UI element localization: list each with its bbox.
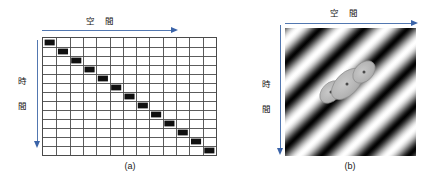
arrow-head-icon xyxy=(411,20,418,26)
figure-container: 空 間 時 間 (a) 空 間 xyxy=(0,0,433,185)
panel-a-caption: (a) xyxy=(110,162,150,171)
panel-b-grating-svg xyxy=(285,28,416,156)
grid-filled-cell xyxy=(151,112,161,118)
panel-b-y-axis-label-char-2: 間 xyxy=(260,102,272,117)
panel-a-grid-plot xyxy=(42,37,217,156)
arrow-head-icon xyxy=(171,27,178,33)
panel-b-y-axis-label-char-1: 時 xyxy=(260,77,272,92)
panel-a-y-axis-label-char-2: 間 xyxy=(16,99,28,114)
arrow-head-icon xyxy=(34,141,40,148)
panel-b-y-axis-arrow xyxy=(277,25,284,155)
arrow-shaft xyxy=(280,25,281,149)
panel-a-x-axis-arrow xyxy=(42,27,178,34)
panel-a-y-axis-arrow xyxy=(34,40,41,148)
panel-b-grating-plot xyxy=(285,28,416,156)
arrow-head-icon xyxy=(277,148,283,155)
grid-filled-cell xyxy=(138,103,148,109)
arrow-shaft xyxy=(37,40,38,142)
grid-filled-cell xyxy=(111,85,121,91)
panel-b-caption: (b) xyxy=(330,162,370,171)
grid-filled-cell xyxy=(45,40,55,46)
grid-filled-cell xyxy=(85,67,95,73)
panel-b-x-axis-arrow xyxy=(285,20,418,27)
panel-a-x-axis-label: 空 間 xyxy=(86,17,115,26)
receptive-field-center-dot xyxy=(363,71,366,74)
grid-filled-cell xyxy=(58,49,68,55)
grid-filled-cell xyxy=(178,130,188,136)
grid-filled-cell xyxy=(204,148,214,154)
grid-filled-cell xyxy=(164,121,174,127)
grid-filled-cell xyxy=(98,76,108,82)
arrow-shaft xyxy=(285,23,412,24)
grid-filled-cell xyxy=(191,139,201,145)
panel-b-x-axis-label: 空 間 xyxy=(330,9,359,18)
panel-a-y-axis-label-char-1: 時 xyxy=(16,74,28,89)
arrow-shaft xyxy=(42,30,172,31)
receptive-field-center-dot xyxy=(346,83,349,86)
grid-filled-cell xyxy=(124,94,134,100)
panel-a-grid-svg xyxy=(43,38,216,155)
grid-filled-cell xyxy=(71,58,81,64)
